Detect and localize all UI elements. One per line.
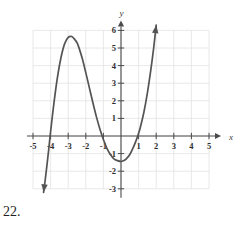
y-axis-tick-label: 2: [112, 96, 116, 106]
graph-canvas: -5-4-3-2-112345 -3-2-1123456 x y: [0, 0, 245, 227]
x-axis-label: x: [228, 132, 233, 142]
y-axis-tick-label: 5: [112, 43, 116, 53]
y-axis-tick-label: -2: [109, 166, 116, 176]
problem-number-label: 22.: [3, 204, 21, 220]
x-axis-tick-label: 3: [172, 141, 176, 151]
cubic-curve-path: [44, 25, 157, 192]
x-axis-arrow-icon: [215, 133, 221, 139]
x-axis-tick-label: 2: [154, 141, 158, 151]
y-axis-tick-labels-group: -3-2-1123456: [109, 25, 117, 193]
x-axis-tick-label: 5: [207, 141, 211, 151]
y-axis-tick-label: -3: [109, 184, 116, 194]
y-axis-tick-label: 1: [112, 113, 116, 123]
y-axis-tick-label: 6: [112, 25, 116, 35]
x-axis-tick-label: -2: [82, 141, 89, 151]
figure-cubic-graph: -5-4-3-2-112345 -3-2-1123456 x y 22.: [0, 0, 245, 227]
y-axis-tick-label: 3: [112, 78, 116, 88]
y-axis-arrow-icon: [118, 20, 124, 26]
x-axis-tick-label: 4: [189, 141, 194, 151]
x-axis-tick-labels-group: -5-4-3-2-112345: [29, 141, 211, 151]
y-axis-label: y: [119, 8, 124, 18]
cubic-curve-group: [41, 25, 158, 192]
x-axis-tick-label: 1: [136, 141, 140, 151]
x-axis-tick-label: -3: [65, 141, 72, 151]
x-axis-tick-label: -5: [29, 141, 36, 151]
